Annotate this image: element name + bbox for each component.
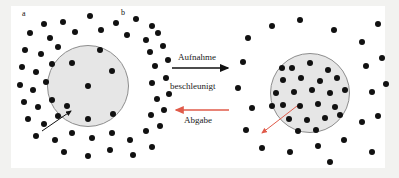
- arrow-overlay: [0, 0, 399, 178]
- pointer-cell-left: [42, 111, 71, 131]
- pointer-cell-right: [262, 106, 297, 133]
- figure-container: a b Aufnahme beschleunigt Abgabe: [0, 0, 399, 178]
